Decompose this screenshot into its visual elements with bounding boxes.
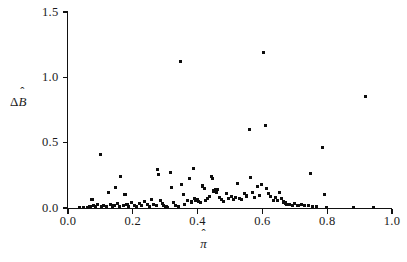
data-point — [309, 172, 312, 175]
data-point — [236, 182, 239, 185]
data-point — [180, 183, 183, 186]
data-point — [276, 199, 279, 202]
data-point — [150, 198, 153, 201]
data-point — [96, 203, 99, 206]
data-point — [203, 187, 206, 190]
x-tick-label-2: 0.4 — [178, 215, 218, 228]
data-point — [157, 173, 160, 176]
data-point — [251, 191, 254, 194]
data-point — [156, 168, 159, 171]
data-point — [188, 177, 191, 180]
data-point — [118, 205, 121, 208]
plot-data-area — [68, 12, 392, 208]
x-tick-label-0: 0.0 — [48, 215, 88, 228]
x-tick-4 — [327, 209, 328, 214]
data-point — [262, 51, 265, 54]
data-point — [225, 192, 228, 195]
y-axis-title-bhat: ˆB — [18, 94, 26, 109]
data-point — [140, 204, 143, 207]
x-axis-title: ˆπ — [0, 236, 407, 251]
y-tick-3 — [63, 11, 68, 12]
x-axis-title-pihat: ˆπ — [200, 236, 207, 251]
data-point — [105, 205, 108, 208]
data-point — [269, 195, 272, 198]
scatter-plot-figure: 0.00.51.01.5 0.00.20.40.60.81.0 ΔˆB ˆπ — [0, 0, 407, 262]
data-point — [245, 194, 248, 197]
data-point — [94, 205, 97, 208]
data-point — [240, 198, 243, 201]
x-tick-label-4: 0.8 — [307, 215, 347, 228]
data-point — [215, 191, 218, 194]
data-point — [315, 205, 318, 208]
data-point — [179, 60, 182, 63]
data-point — [199, 201, 202, 204]
y-tick-label-3: 1.5 — [29, 6, 59, 19]
data-point — [90, 198, 93, 201]
y-tick-1 — [63, 142, 68, 143]
data-point — [177, 205, 180, 208]
data-point — [119, 175, 122, 178]
data-point — [325, 206, 328, 209]
y-axis-title-hat-glyph: ˆ — [18, 86, 26, 98]
data-point — [258, 194, 261, 197]
y-tick-label-2: 1.0 — [29, 71, 59, 84]
data-point — [114, 186, 117, 189]
data-point — [311, 205, 314, 208]
data-point — [127, 205, 130, 208]
data-point — [208, 195, 211, 198]
data-point — [364, 95, 367, 98]
data-point — [169, 171, 172, 174]
data-point — [264, 124, 267, 127]
y-tick-2 — [63, 77, 68, 78]
data-point — [155, 204, 158, 207]
data-point — [222, 200, 225, 203]
data-point — [260, 183, 263, 186]
data-point — [186, 199, 189, 202]
x-tick-label-1: 0.2 — [113, 215, 153, 228]
data-point — [78, 206, 81, 209]
data-point — [216, 188, 219, 191]
data-point — [183, 203, 186, 206]
data-point — [88, 205, 91, 208]
data-point — [122, 204, 125, 207]
x-tick-2 — [197, 209, 198, 214]
data-point — [211, 177, 214, 180]
data-point — [256, 185, 259, 188]
data-point — [135, 205, 138, 208]
y-axis-title-delta: Δ — [10, 94, 18, 109]
x-tick-0 — [67, 209, 68, 214]
x-tick-1 — [132, 209, 133, 214]
data-point — [248, 128, 251, 131]
data-point — [148, 205, 151, 208]
data-point — [234, 196, 237, 199]
data-point — [123, 193, 126, 196]
x-tick-label-5: 1.0 — [372, 215, 407, 228]
data-point — [230, 195, 233, 198]
data-point — [352, 206, 355, 209]
y-tick-label-1: 0.5 — [29, 136, 59, 149]
data-point — [182, 193, 185, 196]
data-point — [307, 204, 310, 207]
data-point — [265, 187, 268, 190]
data-point — [99, 153, 102, 156]
data-point — [253, 196, 256, 199]
data-point — [107, 191, 110, 194]
x-tick-label-3: 0.6 — [242, 215, 282, 228]
data-point — [303, 204, 306, 207]
x-tick-3 — [262, 209, 263, 214]
data-point — [166, 206, 169, 209]
data-point — [249, 176, 252, 179]
x-axis-title-hat-glyph: ˆ — [200, 228, 207, 240]
data-point — [190, 200, 193, 203]
data-point — [192, 167, 195, 170]
y-axis-title: ΔˆB — [10, 94, 26, 109]
data-point — [323, 193, 326, 196]
data-point — [372, 206, 375, 209]
x-tick-5 — [391, 209, 392, 214]
y-tick-label-0: 0.0 — [29, 202, 59, 215]
data-point — [321, 146, 324, 149]
data-point — [278, 191, 281, 194]
data-point — [170, 186, 173, 189]
data-point — [82, 206, 85, 209]
